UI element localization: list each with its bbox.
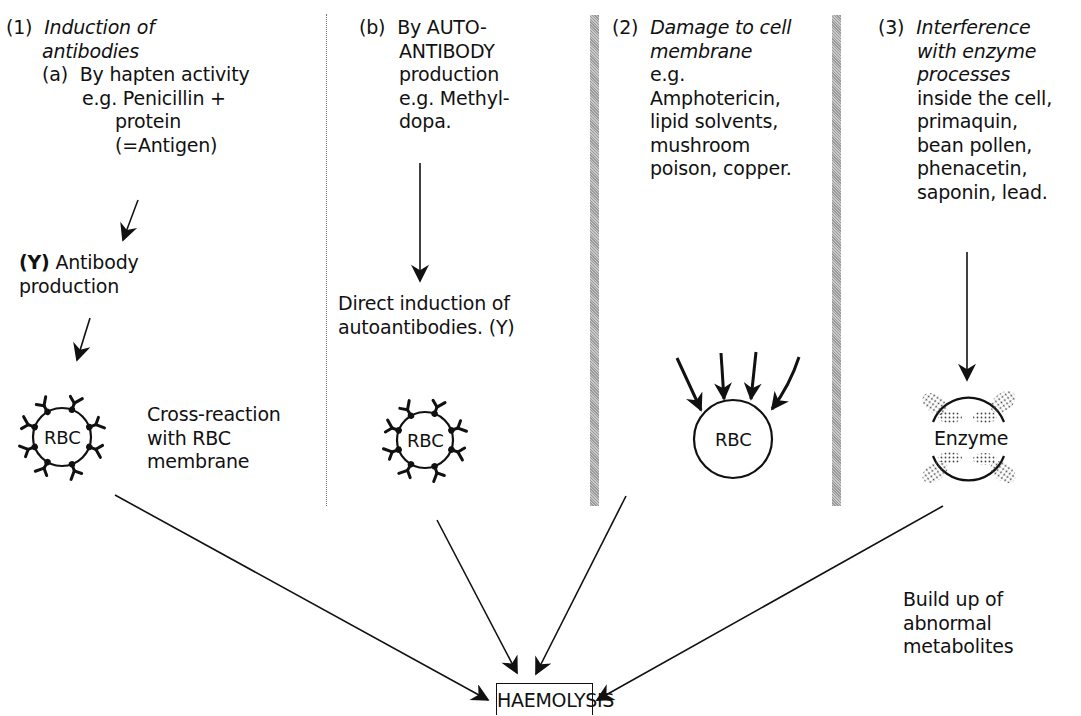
- diagram-graphics: [0, 0, 1081, 716]
- rbc-label-3: RBC: [715, 428, 752, 452]
- arrow-col1-to-haemolysis: [115, 495, 488, 700]
- haemolysis-box: HAEMOLYSIS: [496, 683, 593, 715]
- enzyme-label: Enzyme: [934, 427, 1008, 451]
- arrow-antigen-to-antibody: [123, 200, 138, 240]
- arrow-antibody-to-rbc: [77, 318, 90, 360]
- arrow-col2-to-haemolysis: [437, 520, 517, 673]
- arrow-col3-to-haemolysis: [536, 496, 626, 674]
- rbc-cell-3: [677, 352, 799, 478]
- arrow-col4-to-haemolysis: [597, 506, 943, 700]
- rbc-label-1: RBC: [44, 426, 81, 450]
- rbc-label-2: RBC: [407, 429, 444, 453]
